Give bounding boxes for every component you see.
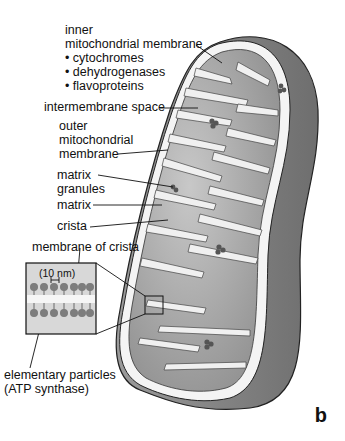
label-matrix-granules-1: matrix bbox=[57, 168, 91, 182]
label-intermembrane-space: intermembrane space bbox=[44, 100, 165, 114]
label-elementary-particles-2: (ATP synthase) bbox=[4, 382, 89, 396]
label-outer-membrane-1: outer bbox=[59, 119, 88, 133]
label-inner-membrane-title: inner bbox=[65, 23, 93, 37]
label-inner-membrane-title2: mitochondrial membrane bbox=[65, 37, 203, 51]
label-outer-membrane-2: mitochondrial bbox=[59, 133, 133, 147]
label-bullet-cytochromes: • cytochromes bbox=[65, 51, 144, 65]
label-bullet-dehydrogenases: • dehydrogenases bbox=[65, 65, 165, 79]
label-outer-membrane-3: membrane bbox=[59, 147, 119, 161]
panel-label: b bbox=[315, 404, 327, 427]
label-crista: crista bbox=[57, 219, 87, 233]
label-elementary-particles-1: elementary particles bbox=[4, 368, 116, 382]
label-scale-10nm: (10 nm) bbox=[39, 266, 75, 280]
label-matrix: matrix bbox=[57, 198, 91, 212]
label-membrane-of-crista: membrane of crista bbox=[32, 240, 139, 254]
label-matrix-granules-2: granules bbox=[57, 182, 105, 196]
label-bullet-flavoproteins: • flavoproteins bbox=[65, 79, 144, 93]
